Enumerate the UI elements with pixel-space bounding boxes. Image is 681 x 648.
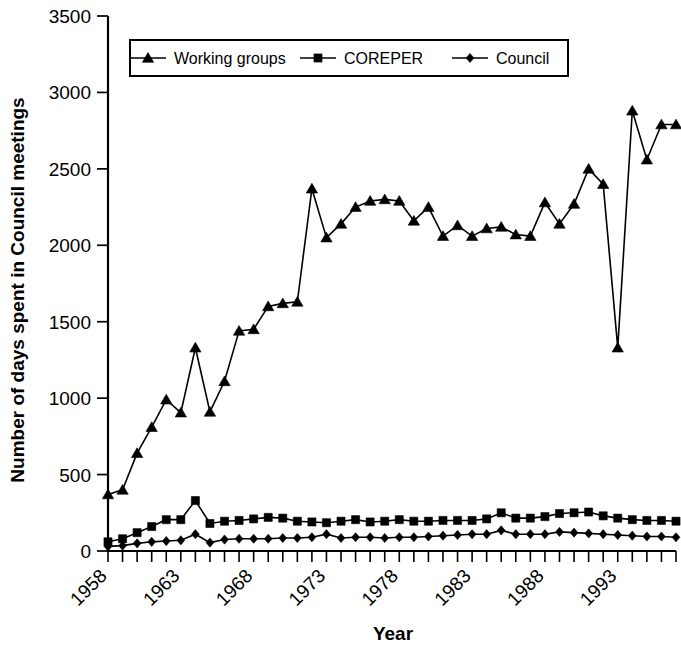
y-tick-label: 3000: [49, 82, 91, 103]
y-tick-label: 2000: [49, 235, 91, 256]
data-point-square: [585, 508, 593, 516]
data-series: [102, 105, 681, 551]
data-point-square: [497, 509, 505, 517]
line-chart: 0500100015002000250030003500 19581963196…: [0, 0, 681, 648]
data-point-diamond: [454, 530, 462, 539]
x-tick-label: 1963: [139, 565, 184, 610]
data-point-diamond: [468, 530, 476, 539]
data-point-diamond: [672, 533, 680, 542]
data-point-triangle: [190, 342, 201, 352]
data-point-diamond: [541, 530, 549, 539]
data-point-triangle: [350, 202, 361, 212]
data-point-diamond: [162, 536, 170, 545]
data-point-square: [512, 514, 520, 522]
data-point-diamond: [279, 533, 287, 542]
data-point-square: [162, 516, 170, 524]
data-point-diamond: [643, 532, 651, 541]
data-point-square: [555, 510, 563, 518]
data-point-diamond: [250, 534, 258, 543]
data-point-square: [177, 516, 185, 524]
data-point-square: [643, 516, 651, 524]
data-point-diamond: [177, 536, 185, 545]
data-point-square: [672, 517, 680, 525]
data-point-square: [322, 519, 330, 527]
data-point-triangle: [583, 163, 594, 173]
data-point-diamond: [323, 530, 331, 539]
data-point-triangle: [452, 220, 463, 230]
data-point-triangle: [437, 231, 448, 241]
y-axis-tick-labels: 0500100015002000250030003500: [49, 6, 91, 562]
legend-label: Working groups: [174, 50, 286, 67]
data-point-diamond: [337, 533, 345, 542]
chart-legend: Working groupsCOREPERCouncil: [130, 40, 568, 76]
data-point-square: [468, 516, 476, 524]
data-point-triangle: [627, 105, 638, 115]
data-point-triangle: [379, 194, 390, 204]
data-point-triangle: [131, 448, 142, 458]
data-point-square: [250, 515, 258, 523]
data-point-diamond: [658, 532, 666, 541]
data-point-diamond: [293, 533, 301, 542]
data-point-triangle: [510, 229, 521, 239]
legend-label: Council: [496, 50, 549, 67]
data-point-square: [657, 516, 665, 524]
data-point-square: [628, 516, 636, 524]
data-point-triangle: [292, 296, 303, 306]
data-point-triangle: [146, 422, 157, 432]
data-point-triangle: [117, 484, 128, 494]
data-point-diamond: [526, 530, 534, 539]
data-point-square: [381, 517, 389, 525]
data-point-square: [614, 514, 622, 522]
data-point-triangle: [161, 394, 172, 404]
data-point-square: [206, 519, 214, 527]
x-tick-label: 1988: [503, 565, 548, 610]
data-point-triangle: [641, 154, 652, 164]
data-point-triangle: [554, 218, 565, 228]
data-point-diamond: [585, 529, 593, 538]
series-coreper: [104, 497, 680, 546]
data-point-triangle: [248, 324, 259, 334]
data-point-diamond: [264, 534, 272, 543]
data-point-square: [424, 517, 432, 525]
y-tick-label: 1500: [49, 312, 91, 333]
y-tick-label: 0: [80, 541, 91, 562]
data-point-square: [410, 517, 418, 525]
data-point-triangle: [612, 342, 623, 352]
data-point-square: [366, 518, 374, 526]
data-point-square: [483, 515, 491, 523]
data-point-triangle: [466, 231, 477, 241]
x-tick-label: 1993: [576, 565, 621, 610]
data-point-diamond: [425, 532, 433, 541]
data-point-square: [148, 522, 156, 530]
y-axis-title: Number of days spent in Council meetings: [7, 97, 28, 482]
data-point-square: [264, 513, 272, 521]
legend-label: COREPER: [344, 50, 423, 67]
data-point-triangle: [539, 197, 550, 207]
data-point-triangle: [204, 407, 215, 417]
data-point-square: [235, 516, 243, 524]
data-point-diamond: [191, 530, 199, 539]
axis-frame: [108, 16, 676, 551]
data-point-square: [439, 516, 447, 524]
chart-container: 0500100015002000250030003500 19581963196…: [0, 0, 681, 648]
data-point-diamond: [599, 530, 607, 539]
data-point-diamond: [614, 530, 622, 539]
y-tick-label: 2500: [49, 159, 91, 180]
data-point-diamond: [148, 537, 156, 546]
series-council: [104, 526, 680, 551]
data-point-diamond: [366, 533, 374, 542]
data-point-square: [220, 517, 228, 525]
data-point-square: [308, 518, 316, 526]
legend-marker-square-icon: [314, 54, 322, 62]
data-point-triangle: [568, 199, 579, 209]
data-point-diamond: [352, 533, 360, 542]
data-point-diamond: [206, 538, 214, 547]
data-point-diamond: [235, 534, 243, 543]
data-point-square: [337, 517, 345, 525]
series-working-groups: [102, 105, 681, 498]
y-axis-ticks: [97, 16, 108, 551]
data-point-diamond: [497, 526, 505, 535]
data-point-triangle: [306, 183, 317, 193]
data-point-diamond: [221, 535, 229, 544]
data-point-diamond: [439, 531, 447, 540]
